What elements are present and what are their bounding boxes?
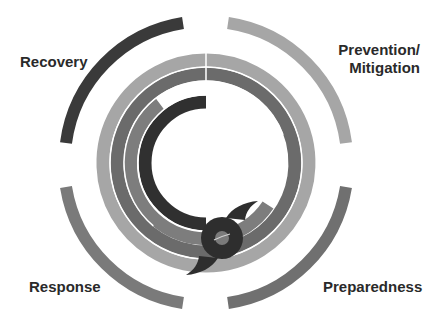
ring-dark (145, 102, 206, 224)
prevention-mitigation-label: Prevention/ Mitigation (328, 41, 420, 77)
prevention-label-line2: Mitigation (328, 59, 420, 77)
preparedness-label: Preparedness (323, 278, 422, 296)
response-label: Response (29, 278, 101, 296)
recovery-label: Recovery (20, 53, 88, 71)
prevention-label-line1: Prevention/ (328, 41, 420, 59)
